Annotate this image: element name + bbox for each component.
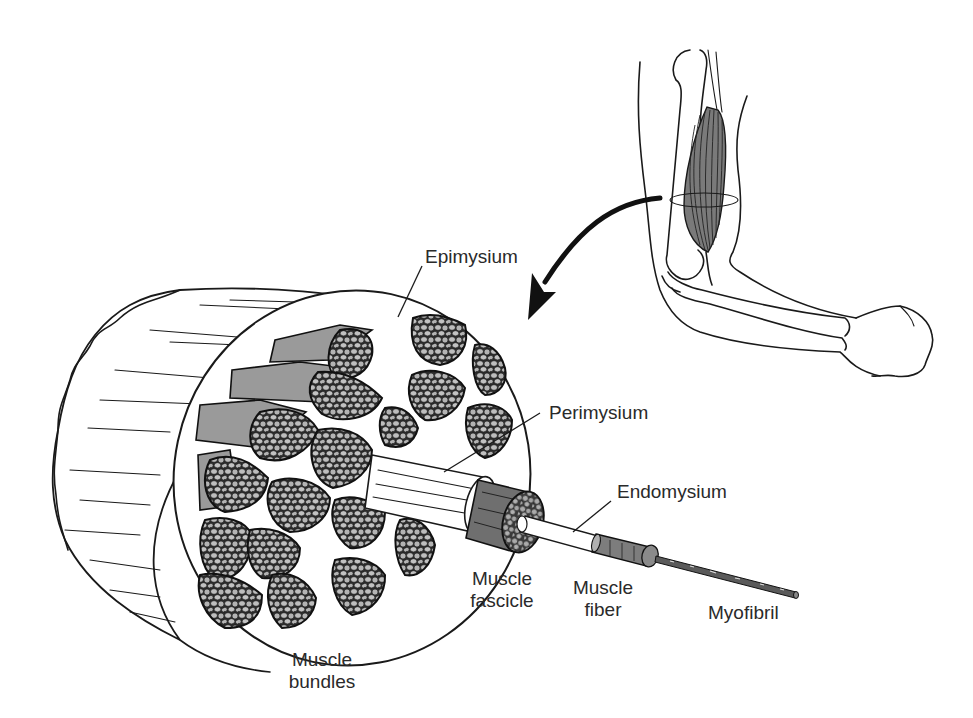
label-muscle-fascicle-line1: Muscle [462, 568, 542, 590]
label-endomysium: Endomysium [617, 481, 727, 503]
label-myofibril: Myofibril [708, 602, 779, 624]
label-epimysium: Epimysium [425, 246, 518, 268]
label-muscle-bundles-line2: bundles [282, 671, 362, 693]
label-perimysium: Perimysium [549, 402, 648, 424]
label-muscle-fiber-line2: fiber [568, 599, 638, 621]
label-muscle-fiber: Muscle fiber [568, 577, 638, 621]
arm-illustration [638, 50, 932, 377]
label-muscle-fascicle-line2: fascicle [462, 590, 542, 612]
label-muscle-fiber-line1: Muscle [568, 577, 638, 599]
label-muscle-bundles-line1: Muscle [282, 649, 362, 671]
curved-arrow [528, 198, 660, 320]
muscle-cylinder [53, 257, 799, 699]
label-muscle-bundles: Muscle bundles [282, 649, 362, 693]
label-muscle-fascicle: Muscle fascicle [462, 568, 542, 612]
